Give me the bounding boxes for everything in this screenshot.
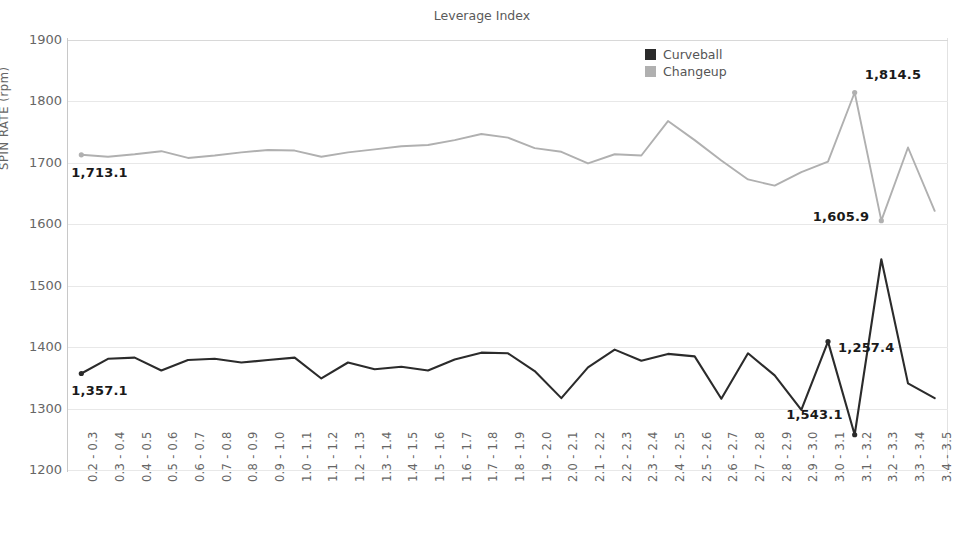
x-tick-label: 3.4 - 3.5 xyxy=(940,431,954,482)
legend-item-curveball[interactable]: Curveball xyxy=(645,46,727,63)
x-tick-label: 0.2 - 0.3 xyxy=(86,431,100,482)
x-tick-label: 0.4 - 0.5 xyxy=(140,431,154,482)
y-axis-title: SPIN RATE (rpm) xyxy=(0,66,11,170)
gridline xyxy=(68,163,948,164)
x-tick-label: 1.7 - 1.8 xyxy=(486,431,500,482)
data-point-marker xyxy=(852,90,857,95)
series-line-changeup xyxy=(81,93,934,221)
y-tick-label: 1900 xyxy=(0,33,62,46)
legend-label-changeup: Changeup xyxy=(663,63,727,80)
x-tick-label: 2.5 - 2.6 xyxy=(700,431,714,482)
x-tick-label: 1.4 - 1.5 xyxy=(406,431,420,482)
data-point-marker xyxy=(79,152,84,157)
data-label: 1,814.5 xyxy=(865,67,922,82)
x-tick-label: 2.4 - 2.5 xyxy=(673,431,687,482)
x-tick-label: 1.2 - 1.3 xyxy=(353,431,367,482)
legend-label-curveball: Curveball xyxy=(663,46,722,63)
x-tick-label: 2.3 - 2.4 xyxy=(646,431,660,482)
y-tick-label: 1400 xyxy=(0,340,62,353)
data-label: 1,257.4 xyxy=(838,340,895,355)
data-point-marker xyxy=(879,218,884,223)
plot-right-edge xyxy=(947,38,948,472)
gridline xyxy=(68,286,948,287)
x-tick-label: 0.9 - 1.0 xyxy=(273,431,287,482)
spin-rate-line-chart: Leverage Index 1900180017001600150014001… xyxy=(0,0,964,560)
x-tick-label: 2.9 - 3.0 xyxy=(806,431,820,482)
x-tick-label: 2.6 - 2.7 xyxy=(726,431,740,482)
data-point-marker xyxy=(825,339,830,344)
y-tick-label: 1200 xyxy=(0,463,62,476)
x-tick-label: 2.1 - 2.2 xyxy=(593,431,607,482)
gridline xyxy=(68,224,948,225)
x-tick-label: 3.2 - 3.3 xyxy=(886,431,900,482)
x-tick-label: 2.2 - 2.3 xyxy=(620,431,634,482)
y-tick-label: 1500 xyxy=(0,279,62,292)
x-tick-label: 0.3 - 0.4 xyxy=(113,431,127,482)
chart-title: Leverage Index xyxy=(0,8,964,23)
x-tick-label: 0.7 - 0.8 xyxy=(220,431,234,482)
gridline xyxy=(68,101,948,102)
x-tick-label: 3.0 - 3.1 xyxy=(833,431,847,482)
x-tick-label: 2.7 - 2.8 xyxy=(753,431,767,482)
data-label: 1,543.1 xyxy=(0,407,843,422)
x-tick-label: 1.9 - 2.0 xyxy=(540,431,554,482)
x-tick-label: 0.6 - 0.7 xyxy=(193,431,207,482)
data-label: 1,713.1 xyxy=(71,165,128,180)
x-tick-label: 1.1 - 1.2 xyxy=(326,431,340,482)
legend-swatch-curveball xyxy=(645,49,656,60)
legend-swatch-changeup xyxy=(645,66,656,77)
x-tick-label: 0.8 - 0.9 xyxy=(246,431,260,482)
data-point-marker xyxy=(79,371,84,376)
data-label: 1,605.9 xyxy=(0,209,869,224)
data-point-marker xyxy=(852,432,857,437)
gridline xyxy=(68,40,948,41)
x-tick-label: 1.6 - 1.7 xyxy=(460,431,474,482)
x-tick-label: 1.3 - 1.4 xyxy=(380,431,394,482)
top-caption xyxy=(10,0,950,6)
legend-item-changeup[interactable]: Changeup xyxy=(645,63,727,80)
legend: Curveball Changeup xyxy=(645,46,727,80)
x-tick-label: 3.1 - 3.2 xyxy=(860,431,874,482)
x-tick-label: 2.0 - 2.1 xyxy=(566,431,580,482)
x-tick-label: 1.0 - 1.1 xyxy=(300,431,314,482)
x-tick-label: 0.5 - 0.6 xyxy=(166,431,180,482)
x-tick-label: 1.5 - 1.6 xyxy=(433,431,447,482)
x-tick-label: 1.8 - 1.9 xyxy=(513,431,527,482)
data-label: 1,357.1 xyxy=(71,383,128,398)
x-tick-label: 3.3 - 3.4 xyxy=(913,431,927,482)
x-tick-label: 2.8 - 2.9 xyxy=(780,431,794,482)
gridline xyxy=(68,347,948,348)
